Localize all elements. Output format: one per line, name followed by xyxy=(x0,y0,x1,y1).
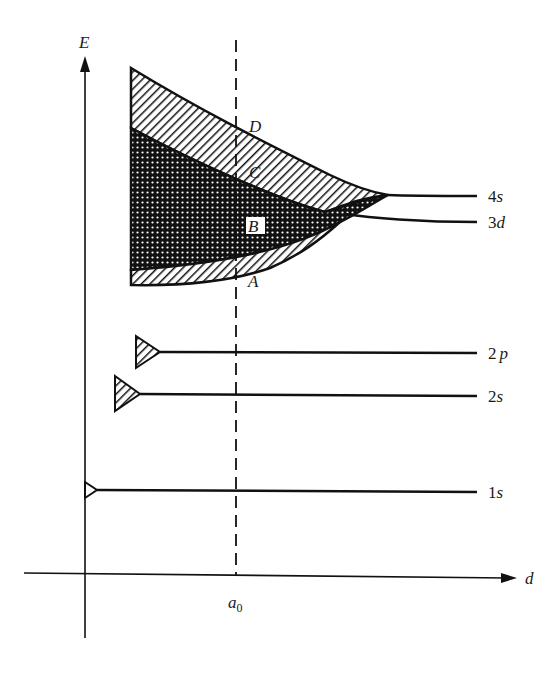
level-line-3d xyxy=(345,214,477,222)
level-line-2s xyxy=(140,394,477,396)
level-label-1s: 1s xyxy=(488,483,504,502)
band-2s xyxy=(115,376,140,411)
level-line-2p xyxy=(160,352,477,353)
band-2p xyxy=(136,336,160,368)
level-label-2s: 2s xyxy=(488,387,504,406)
point-d-label: D xyxy=(248,117,262,136)
level-label-3d: 3d xyxy=(488,213,506,232)
band-1s xyxy=(85,482,97,498)
level-label-2p: 2p xyxy=(488,344,508,363)
level-line-4s xyxy=(388,195,477,196)
point-b-label: B xyxy=(248,217,259,236)
x-axis-label: d xyxy=(525,569,534,588)
x-axis xyxy=(24,573,508,578)
y-axis-arrow-icon xyxy=(80,56,90,72)
energy-band-diagram: E d a0 D C B A 4s 3d 2p 2s 1s xyxy=(0,0,554,679)
level-label-4s: 4s xyxy=(488,187,504,206)
point-c-label: C xyxy=(249,163,261,182)
a0-label: a0 xyxy=(228,593,243,615)
y-axis-label: E xyxy=(78,33,90,52)
point-a-label: A xyxy=(247,272,259,291)
level-line-1s xyxy=(97,490,477,492)
x-axis-arrow-icon xyxy=(501,573,517,583)
